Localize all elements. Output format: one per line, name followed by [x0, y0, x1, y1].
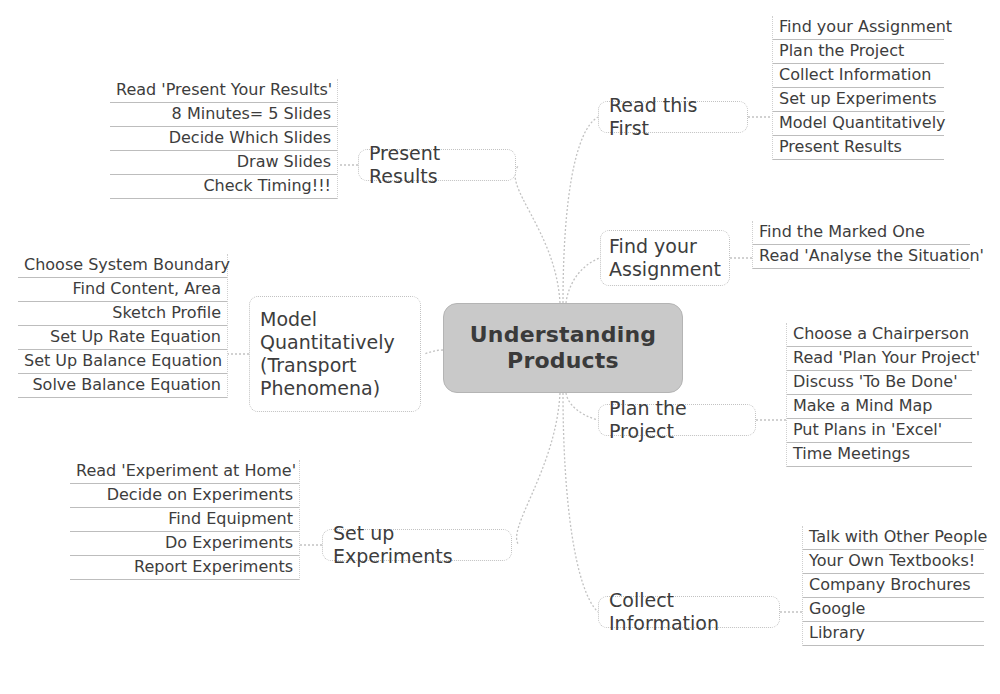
- leaf-item[interactable]: 8 Minutes= 5 Slides: [110, 103, 337, 127]
- leaf-item[interactable]: Read 'Plan Your Project': [787, 347, 972, 371]
- leaf-item[interactable]: Model Quantitatively: [773, 112, 944, 136]
- link-center-find-your-assignment: [566, 258, 600, 303]
- link-center-collect-information: [563, 393, 598, 612]
- branch-label-present-results: Present Results: [369, 142, 505, 188]
- branch-label-set-up-experiments: Set up Experiments: [333, 522, 501, 568]
- leaf-item[interactable]: Time Meetings: [787, 443, 972, 467]
- link-center-set-up-experiments: [517, 393, 560, 545]
- leaf-item[interactable]: Talk with Other People: [803, 526, 984, 550]
- leaf-item[interactable]: Set Up Balance Equation: [18, 350, 227, 374]
- leaf-item[interactable]: Decide on Experiments: [70, 484, 299, 508]
- leaf-group-collect-information: Talk with Other People Your Own Textbook…: [802, 526, 984, 646]
- central-node[interactable]: Understanding Products: [443, 303, 683, 393]
- leaf-group-plan-the-project: Choose a Chairperson Read 'Plan Your Pro…: [786, 323, 972, 467]
- leaf-group-find-your-assignment: Find the Marked One Read 'Analyse the Si…: [752, 221, 970, 269]
- leaf-item[interactable]: Decide Which Slides: [110, 127, 337, 151]
- leaf-item[interactable]: Make a Mind Map: [787, 395, 972, 419]
- branch-label-read-this-first: Read this First: [609, 94, 737, 140]
- leaf-item[interactable]: Check Timing!!!: [110, 175, 337, 199]
- link-center-read-this-first: [563, 117, 598, 303]
- leaf-item[interactable]: Sketch Profile: [18, 302, 227, 326]
- link-center-model-quantitatively: [424, 350, 443, 354]
- leaf-item[interactable]: Discuss 'To Be Done': [787, 371, 972, 395]
- branch-label-model-quantitatively: Model Quantitatively (Transport Phenomen…: [260, 308, 395, 399]
- leaf-item[interactable]: Read 'Experiment at Home': [70, 460, 299, 484]
- leaf-item[interactable]: Put Plans in 'Excel': [787, 419, 972, 443]
- leaf-item[interactable]: Read 'Present Your Results': [110, 79, 337, 103]
- leaf-item[interactable]: Collect Information: [773, 64, 944, 88]
- branch-label-find-your-assignment: Find your Assignment: [609, 235, 721, 281]
- leaf-item[interactable]: Plan the Project: [773, 40, 944, 64]
- leaf-item[interactable]: Present Results: [773, 136, 944, 160]
- branch-node-find-your-assignment[interactable]: Find your Assignment: [600, 230, 730, 286]
- leaf-item[interactable]: Find your Assignment: [773, 16, 944, 40]
- leaf-group-present-results: Read 'Present Your Results' 8 Minutes= 5…: [110, 79, 338, 199]
- leaf-item[interactable]: Solve Balance Equation: [18, 374, 227, 398]
- leaf-item[interactable]: Draw Slides: [110, 151, 337, 175]
- leaf-item[interactable]: Company Brochures: [803, 574, 984, 598]
- leaf-item[interactable]: Set up Experiments: [773, 88, 944, 112]
- leaf-item[interactable]: Library: [803, 622, 984, 646]
- leaf-item[interactable]: Do Experiments: [70, 532, 299, 556]
- leaf-item[interactable]: Find Content, Area: [18, 278, 227, 302]
- leaf-item[interactable]: Set Up Rate Equation: [18, 326, 227, 350]
- link-center-present-results: [515, 165, 560, 303]
- leaf-group-model-quantitatively: Choose System Boundary Find Content, Are…: [18, 254, 228, 398]
- leaf-group-read-this-first: Find your Assignment Plan the Project Co…: [772, 16, 944, 160]
- leaf-item[interactable]: Report Experiments: [70, 556, 299, 580]
- leaf-item[interactable]: Choose a Chairperson: [787, 323, 972, 347]
- branch-label-plan-the-project: Plan the Project: [609, 397, 745, 443]
- leaf-item[interactable]: Your Own Textbooks!: [803, 550, 984, 574]
- leaf-item[interactable]: Read 'Analyse the Situation': [753, 245, 970, 269]
- branch-node-present-results[interactable]: Present Results: [358, 149, 516, 181]
- leaf-group-set-up-experiments: Read 'Experiment at Home' Decide on Expe…: [70, 460, 300, 580]
- mind-map-canvas: Understanding Products Read this First F…: [0, 0, 1000, 694]
- bottom-caption: [0, 678, 1000, 694]
- link-center-plan-the-project: [566, 393, 598, 420]
- branch-node-set-up-experiments[interactable]: Set up Experiments: [322, 529, 512, 561]
- branch-label-collect-information: Collect Information: [609, 589, 769, 635]
- branch-node-collect-information[interactable]: Collect Information: [598, 596, 780, 628]
- leaf-item[interactable]: Find the Marked One: [753, 221, 970, 245]
- branch-node-read-this-first[interactable]: Read this First: [598, 101, 748, 133]
- branch-node-model-quantitatively[interactable]: Model Quantitatively (Transport Phenomen…: [249, 296, 421, 412]
- branch-node-plan-the-project[interactable]: Plan the Project: [598, 404, 756, 436]
- leaf-item[interactable]: Find Equipment: [70, 508, 299, 532]
- central-node-label: Understanding Products: [470, 322, 656, 374]
- leaf-item[interactable]: Choose System Boundary: [18, 254, 227, 278]
- leaf-item[interactable]: Google: [803, 598, 984, 622]
